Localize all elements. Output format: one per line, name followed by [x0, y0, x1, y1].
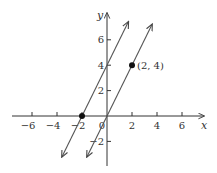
x-tick-label: 2	[129, 120, 135, 131]
x-tick-label: 6	[179, 120, 185, 131]
y-tick-label: 2	[98, 85, 104, 96]
data-point	[129, 62, 135, 68]
y-tick-label: 6	[98, 34, 104, 45]
x-tick-label: −2	[71, 120, 86, 131]
coordinate-plane: xy −6−4−20246−2246 (2, 4)	[0, 0, 217, 173]
points: (2, 4)	[79, 60, 164, 119]
x-axis-label: x	[201, 119, 208, 132]
y-axis-label: y	[96, 9, 104, 22]
x-tick-label: −6	[21, 120, 36, 131]
x-tick-label: 4	[154, 120, 160, 131]
x-tick-label: −4	[46, 120, 61, 131]
data-point	[79, 113, 85, 119]
axes: xy	[12, 9, 208, 166]
point-label: (2, 4)	[137, 60, 164, 71]
ticks: −6−4−20246−2246	[21, 34, 186, 147]
y-tick-label: 4	[98, 60, 104, 71]
